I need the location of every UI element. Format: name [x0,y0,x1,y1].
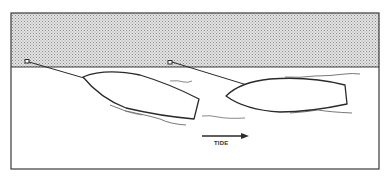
mooring-diagram: TIDE [0,0,389,180]
shore-area [11,13,379,67]
left-mooring-post-icon [25,60,29,64]
tide-label: TIDE [214,140,228,146]
right-mooring-post-icon [168,61,172,65]
